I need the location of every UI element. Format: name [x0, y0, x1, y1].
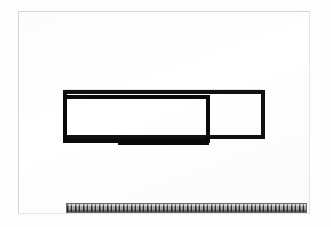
figure-shadow-top: [65, 89, 263, 90]
ruler-bottom-edge: [67, 210, 306, 212]
drawn-figure: [0, 0, 331, 227]
inner-rectangle: [65, 97, 208, 141]
measuring-ruler: ruler with centimetre and millimetre gra…: [66, 203, 307, 213]
ruler-top-edge: [67, 204, 306, 206]
scene-canvas: ruler with centimetre and millimetre gra…: [0, 0, 331, 227]
